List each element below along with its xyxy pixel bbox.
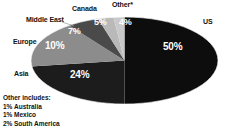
slice-value-us: 50% [163,41,182,52]
slice-label-middle-east: Middle East [26,16,64,24]
footnote-pct-mexico: 1% [3,111,14,120]
slice-label-asia: Asia [14,70,28,78]
slice-label-europe: Europe [13,38,37,46]
slice-value-middle-east: 7% [68,26,81,37]
footnote-row-mexico: 1%Mexico [3,111,60,120]
footnote-row-south-america: 2%South America [3,120,60,129]
footnote-name-south-america: South America [14,120,60,127]
slice-value-other: 4% [119,17,132,28]
footnote-block: Other includes: 1%Australia 1%Mexico 2%S… [3,94,60,128]
slice-label-us: US [203,18,213,26]
slice-label-other: Other* [112,1,133,9]
footnote-name-australia: Australia [14,103,42,110]
footnote-pct-australia: 1% [3,103,14,112]
slice-value-canada: 5% [94,17,107,28]
footnote-name-mexico: Mexico [14,111,36,118]
slice-label-canada: Canada [72,5,97,13]
slice-value-asia: 24% [70,69,89,80]
footnote-title: Other includes: [3,94,60,103]
footnote-pct-south-america: 2% [3,120,14,129]
footnote-row-australia: 1%Australia [3,103,60,112]
pie-chart-figure: Other* Canada Middle East Europe Asia US… [0,0,234,135]
slice-value-europe: 10% [45,40,64,51]
pie-slice-us [125,0,235,135]
